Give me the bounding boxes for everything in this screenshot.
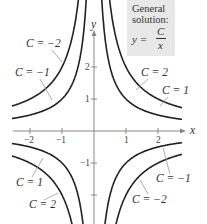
annotation-label: C = −2: [132, 193, 167, 205]
equation-denominator: x: [158, 39, 163, 51]
annotation-label: C = 2: [141, 66, 168, 78]
annotation-label: C = 1: [162, 84, 189, 96]
equation-numerator: C: [157, 25, 164, 37]
y-axis-label: y: [90, 18, 97, 31]
y-tick-label: 2: [85, 62, 90, 72]
annotation-label: C = 1: [16, 176, 43, 188]
annotation-leader: [40, 79, 52, 100]
x-tick-label: 1: [124, 135, 129, 145]
y-axis-arrow: [92, 30, 97, 36]
plot-area: xy−2−11212−1C = −2C = −1C = 2C = 1C = 1C…: [0, 0, 207, 224]
annotation-label: C = −1: [156, 172, 191, 184]
infobox-line1: General: [132, 3, 165, 14]
annotation-label: C = −2: [26, 37, 61, 49]
x-tick-label: 2: [156, 135, 161, 145]
annotation-leader: [32, 158, 43, 177]
x-tick-label: −2: [24, 135, 34, 145]
annotation-leader: [160, 97, 168, 106]
y-tick-label: −1: [80, 158, 90, 168]
annotation-leader: [140, 180, 148, 194]
x-axis-arrow: [180, 129, 186, 134]
x-axis-label: x: [189, 124, 196, 136]
infobox-line2: solution:: [132, 14, 169, 25]
annotation-label: C = −1: [15, 66, 50, 78]
curve-c2: [12, 156, 73, 224]
annotation-label: C = 2: [29, 198, 56, 210]
y-tick-label: 1: [85, 94, 90, 104]
chart: xy−2−11212−1C = −2C = −1C = 2C = 1C = 1C…: [0, 0, 207, 224]
equation-lhs: y =: [132, 33, 147, 45]
general-solution-box: General solution: y = C x: [127, 0, 175, 56]
annotation-leader: [52, 50, 62, 62]
x-tick-label: −1: [56, 135, 66, 145]
